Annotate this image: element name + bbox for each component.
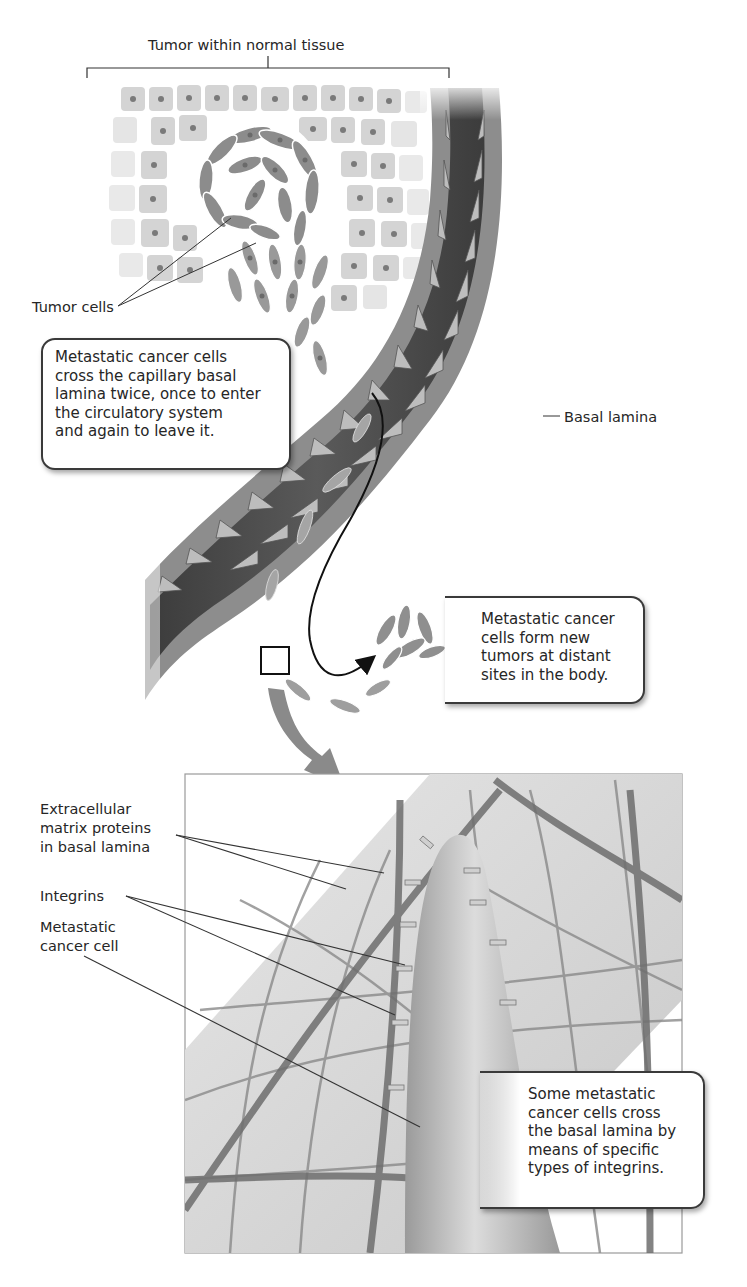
tumor-region-label: Tumor within normal tissue: [148, 36, 344, 54]
callout-line: cancer cells cross: [528, 1104, 693, 1123]
callout-line: tumors at distant: [481, 647, 633, 666]
ecm-proteins-label: Extracellular matrix proteins in basal l…: [40, 800, 151, 857]
callout-integrins-cross: Some metastatic cancer cells cross the b…: [480, 1071, 705, 1209]
tumor-cells-label: Tumor cells: [32, 298, 114, 316]
tumor-bracket: [87, 56, 449, 78]
extravasated-cells: [283, 676, 393, 716]
metastatic-line: Metastatic: [40, 918, 118, 937]
integrins-label: Integrins: [40, 887, 104, 905]
ecm-line: Extracellular: [40, 800, 151, 819]
basal-lamina-label: Basal lamina: [564, 408, 657, 426]
callout-line: cells form new: [481, 629, 633, 648]
callout-line: Metastatic cancer: [481, 610, 633, 629]
callout-line: the circulatory system: [55, 404, 279, 423]
ecm-line: in basal lamina: [40, 838, 151, 857]
metastatic-cell-label: Metastatic cancer cell: [40, 918, 118, 956]
callout-line: cross the capillary basal: [55, 367, 279, 386]
callout-line: types of integrins.: [528, 1159, 693, 1178]
callout-line: means of specific: [528, 1141, 693, 1160]
callout-line: Some metastatic: [528, 1085, 693, 1104]
callout-line: Metastatic cancer cells: [55, 348, 279, 367]
magnify-box: [261, 647, 289, 674]
callout-new-tumors: Metastatic cancer cells form new tumors …: [445, 596, 645, 704]
new-tumor-cluster: [372, 604, 447, 672]
callout-line: and again to leave it.: [55, 422, 279, 441]
callout-line: lamina twice, once to enter: [55, 385, 279, 404]
ecm-line: matrix proteins: [40, 819, 151, 838]
callout-line: sites in the body.: [481, 666, 633, 685]
callout-line: the basal lamina by: [528, 1122, 693, 1141]
callout-cross-twice: Metastatic cancer cells cross the capill…: [41, 338, 291, 470]
metastatic-line: cancer cell: [40, 937, 118, 956]
